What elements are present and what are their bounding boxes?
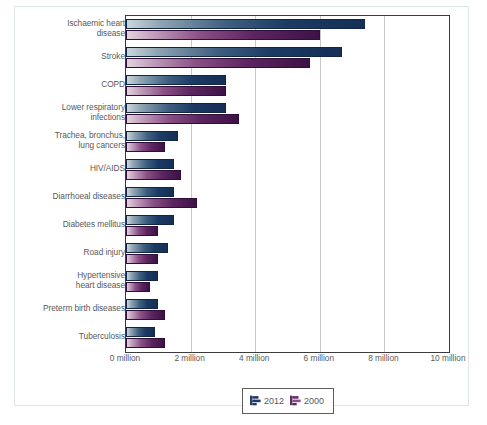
x-axis-ticks: 0 million2 million4 million6 million8 mi…: [125, 353, 450, 367]
bar-row: [126, 44, 449, 72]
bar-2012: [126, 19, 365, 29]
bar-row: [126, 296, 449, 324]
bar-row: [126, 184, 449, 212]
bar-2012: [126, 103, 226, 113]
bar-row: [126, 156, 449, 184]
category-label: Diabetes mellitus: [15, 220, 125, 230]
category-label: Diarrhoeal diseases: [15, 192, 125, 202]
bar-row: [126, 16, 449, 44]
category-axis-labels: Ischaemic heart diseaseStrokeCOPDLower r…: [15, 15, 125, 351]
bar-row: [126, 128, 449, 156]
x-tick-label: 0 million: [90, 353, 160, 363]
legend-label-2000: 2000: [304, 396, 324, 406]
category-label: Lower respiratory infections: [15, 103, 125, 122]
x-tick-label: 6 million: [284, 353, 354, 363]
category-label: Ischaemic heart disease: [15, 19, 125, 38]
category-label: Hypertensive heart disease: [15, 271, 125, 290]
bar-2012: [126, 327, 155, 337]
bar-2012: [126, 131, 178, 141]
category-label: Tuberculosis: [15, 332, 125, 342]
bar-2012: [126, 187, 174, 197]
bar-row: [126, 240, 449, 268]
bar-2000: [126, 282, 150, 292]
bar-2000: [126, 86, 226, 96]
bar-row: [126, 324, 449, 352]
legend-label-2012: 2012: [264, 396, 284, 406]
bar-2000: [126, 310, 165, 320]
x-tick-label: 4 million: [219, 353, 289, 363]
x-tick-label: 2 million: [155, 353, 225, 363]
x-tick-label: 8 million: [348, 353, 418, 363]
x-tick-label: 10 million: [413, 353, 483, 363]
legend-item-2012: 2012: [250, 392, 284, 410]
bar-row: [126, 72, 449, 100]
category-label: Stroke: [15, 52, 125, 62]
bar-chart-icon-blue: [250, 392, 261, 410]
bar-row: [126, 268, 449, 296]
category-label: Preterm birth diseases: [15, 304, 125, 314]
bar-2012: [126, 215, 174, 225]
bar-chart-icon-purple: [290, 392, 301, 410]
bar-2000: [126, 142, 165, 152]
bar-2000: [126, 338, 165, 348]
bar-2012: [126, 299, 158, 309]
bar-2000: [126, 226, 158, 236]
category-label: HIV/AIDS: [15, 164, 125, 174]
plot-area: [125, 15, 450, 353]
bar-2000: [126, 114, 239, 124]
category-label: Road injury: [15, 248, 125, 258]
bar-2012: [126, 271, 158, 281]
category-label: Trachea, bronchus, lung cancers: [15, 131, 125, 150]
bar-2000: [126, 58, 310, 68]
bar-row: [126, 212, 449, 240]
bar-rows: [126, 16, 449, 352]
bar-2000: [126, 254, 158, 264]
chart-figure: Ischaemic heart diseaseStrokeCOPDLower r…: [14, 6, 469, 406]
chart-legend: 2012 2000: [242, 388, 334, 414]
bar-2000: [126, 198, 197, 208]
bar-2012: [126, 243, 168, 253]
bar-chart: Ischaemic heart diseaseStrokeCOPDLower r…: [15, 7, 470, 359]
bar-2012: [126, 159, 174, 169]
bar-2000: [126, 170, 181, 180]
bar-row: [126, 100, 449, 128]
legend-item-2000: 2000: [290, 392, 324, 410]
bar-2012: [126, 47, 342, 57]
category-label: COPD: [15, 80, 125, 90]
bar-2012: [126, 75, 226, 85]
bar-2000: [126, 30, 320, 40]
